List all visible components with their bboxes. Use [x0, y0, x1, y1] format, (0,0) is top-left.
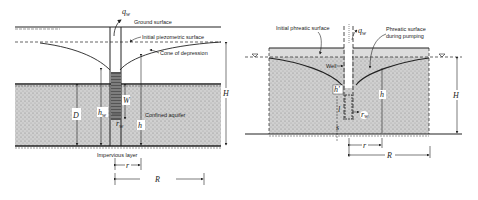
qw-right-label: qw	[358, 26, 366, 36]
cone-left	[40, 43, 110, 70]
water-table-icon-right	[439, 54, 445, 57]
qw-label: qw	[122, 7, 130, 17]
well-hydraulics-diagram: qw Ground surface Initial piezometric su…	[0, 0, 478, 200]
cone-of-depression-label: Cone of depression	[160, 50, 208, 56]
cone-right	[120, 42, 221, 70]
initial-phreatic-label: Initial phreatic surface	[276, 25, 330, 31]
initial-piezometric-label: Initial piezometric surface	[142, 34, 204, 40]
r-right-label: r	[363, 141, 367, 150]
water-table-icon-left	[252, 54, 258, 57]
well-label: Well	[326, 63, 337, 69]
confined-aquifer-label: Confined aquifer	[145, 112, 186, 118]
ground-surface-label: Ground surface	[134, 19, 172, 25]
impervious-layer-label: Impervious layer	[97, 152, 138, 158]
s-label: s	[336, 123, 339, 132]
unconfined-aquifer-diagram: qw Initial phreatic surface Phreatic sur…	[245, 24, 462, 160]
D-label: D	[72, 111, 79, 120]
R-right-label: R	[386, 151, 392, 160]
h-label: h	[138, 121, 142, 130]
confined-aquifer-diagram: qw Ground surface Initial piezometric su…	[15, 7, 230, 185]
h-prime-label: h'	[334, 85, 340, 94]
h-right-label: h	[380, 90, 384, 99]
phreatic-pumping-label-1: Phreatic surface	[386, 26, 426, 32]
r-label: r	[126, 161, 130, 170]
phreatic-pumping-label-2: during pumping	[386, 33, 424, 39]
R-label: R	[154, 175, 160, 184]
